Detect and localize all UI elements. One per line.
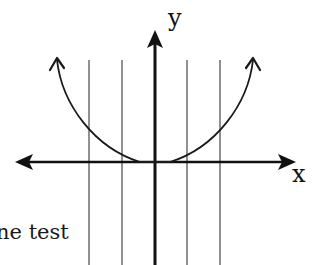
caption-text: ne test <box>0 222 69 243</box>
y-axis-label: y <box>168 6 182 30</box>
curve-right-branch <box>155 60 253 162</box>
curve-left-branch <box>57 60 155 162</box>
x-axis-label: x <box>292 162 306 186</box>
y-axis <box>147 30 163 265</box>
